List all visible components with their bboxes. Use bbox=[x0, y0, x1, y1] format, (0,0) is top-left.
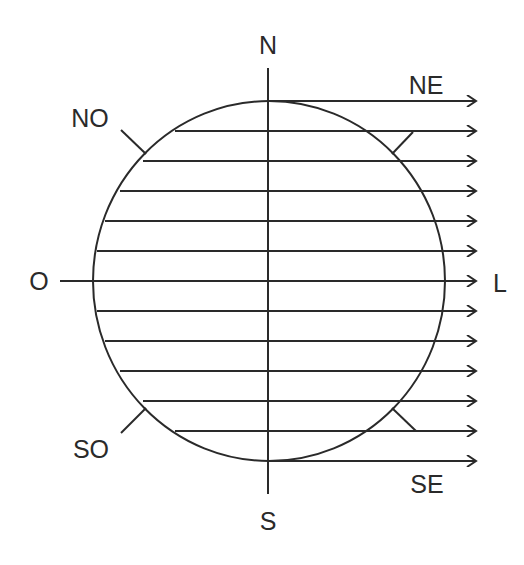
compass-diagram: N NE NO O L SO SE S bbox=[0, 0, 524, 565]
parallel-rays bbox=[93, 101, 476, 461]
label-northeast: NE bbox=[409, 71, 444, 99]
label-southeast: SE bbox=[410, 470, 443, 498]
label-south: S bbox=[260, 507, 277, 535]
southeast-tick bbox=[392, 408, 416, 431]
label-southwest: SO bbox=[73, 435, 109, 463]
label-east: L bbox=[493, 269, 507, 297]
northeast-tick bbox=[392, 132, 413, 154]
southwest-tick bbox=[121, 408, 146, 433]
label-northwest: NO bbox=[71, 104, 109, 132]
label-west: O bbox=[29, 267, 48, 295]
northwest-tick bbox=[121, 130, 146, 154]
label-north: N bbox=[259, 31, 277, 59]
